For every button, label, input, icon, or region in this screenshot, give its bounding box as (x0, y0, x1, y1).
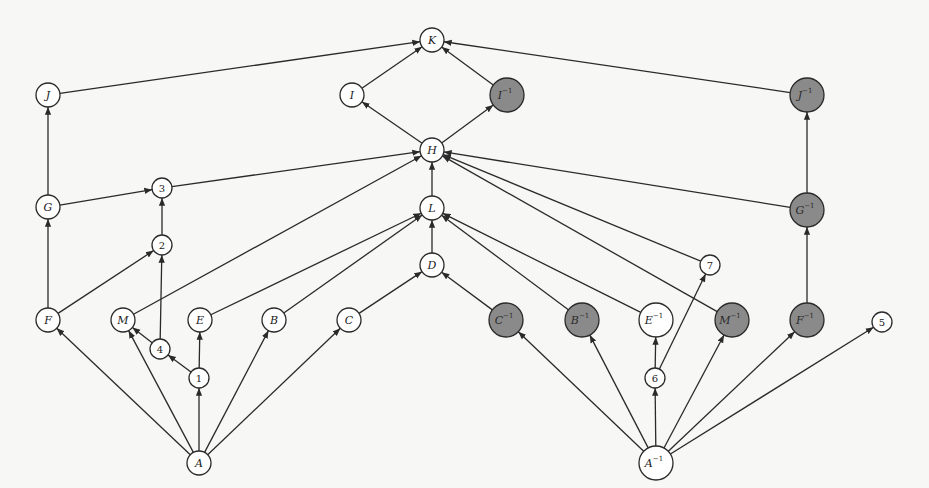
node-n6: 6 (645, 368, 665, 388)
node-F: F (36, 308, 60, 332)
node-n7: 7 (700, 255, 720, 275)
node-label: H (426, 144, 437, 157)
edge-A-to-C (208, 328, 341, 454)
node-H: H (420, 138, 444, 162)
edge-Einv-to-L (443, 213, 641, 312)
edge-n6-to-Einv (655, 337, 656, 368)
node-I: I (340, 83, 364, 107)
node-label: I (349, 89, 355, 102)
node-n3: 3 (152, 178, 172, 198)
node-label: C (345, 314, 354, 327)
directed-graph-diagram: KII−1JJ−1HLDG32G−1FMEBC41AC−1B−1E−1M−1F−… (0, 0, 929, 488)
node-Finv: F−1 (790, 303, 824, 337)
node-n1: 1 (189, 368, 209, 388)
edge-n3-to-H (172, 152, 420, 187)
node-label: A (194, 457, 203, 470)
edge-Ainv-to-Cinv (518, 332, 643, 452)
node-n2: 2 (152, 235, 172, 255)
node-label: G (44, 201, 53, 214)
node-n5: 5 (872, 312, 892, 332)
node-Binv: B−1 (565, 303, 599, 337)
node-label: 5 (879, 317, 885, 328)
node-label: 7 (707, 260, 713, 271)
node-label: B (269, 314, 278, 327)
node-M: M (111, 308, 135, 332)
edge-Ainv-to-Minv (664, 335, 724, 448)
node-Minv: M−1 (715, 303, 749, 337)
edge-B-to-L (284, 215, 422, 313)
node-circle (790, 78, 824, 112)
edge-I-to-K (362, 47, 422, 88)
node-D: D (420, 253, 444, 277)
node-label: E (195, 314, 204, 327)
edge-H-to-Iinv (442, 105, 494, 143)
node-Ginv: G−1 (790, 193, 824, 227)
edge-Ainv-to-n6 (655, 388, 656, 446)
edge-Ginv-to-H (444, 152, 790, 207)
edge-Binv-to-L (442, 215, 569, 310)
edge-A-to-B (205, 331, 269, 453)
nodes-layer: KII−1JJ−1HLDG32G−1FMEBC41AC−1B−1E−1M−1F−… (36, 28, 892, 480)
node-label: F (43, 314, 52, 327)
edge-n1-to-E (199, 332, 200, 368)
node-label: D (427, 259, 437, 272)
edge-Ainv-to-Finv (668, 332, 794, 452)
node-E: E (188, 308, 212, 332)
edge-F-to-n2 (58, 250, 154, 313)
node-label: K (427, 34, 437, 47)
node-label: L (427, 202, 435, 215)
node-B: B (262, 308, 286, 332)
edge-C-to-D (359, 272, 422, 314)
node-label: M (116, 314, 129, 327)
node-label: 2 (159, 240, 165, 251)
node-K: K (420, 28, 444, 52)
node-A: A (187, 451, 211, 475)
edge-Ainv-to-Binv (590, 335, 648, 448)
edge-n4-to-M (132, 327, 152, 342)
edge-H-to-I (362, 102, 422, 143)
node-label: 4 (157, 344, 163, 355)
node-label: 6 (652, 373, 658, 384)
node-Einv: E−1 (639, 303, 673, 337)
edge-Iinv-to-K (442, 47, 494, 85)
node-label: 1 (196, 373, 202, 384)
edge-Ainv-to-n5 (670, 327, 873, 454)
node-C: C (337, 308, 361, 332)
node-J: J (36, 83, 60, 107)
node-label: 3 (159, 183, 165, 194)
edge-E-to-L (211, 213, 421, 315)
edge-Cinv-to-D (442, 272, 493, 310)
node-Ainv: A−1 (639, 446, 673, 480)
edge-G-to-n3 (60, 190, 152, 205)
node-L: L (420, 196, 444, 220)
node-Iinv: I−1 (490, 78, 524, 112)
node-circle (490, 78, 524, 112)
edge-n1-to-n4 (168, 355, 191, 372)
edge-n4-to-n2 (160, 255, 162, 339)
node-label: J (44, 89, 51, 102)
node-G: G (36, 195, 60, 219)
node-Cinv: C−1 (489, 303, 523, 337)
edge-M-to-H (134, 156, 422, 314)
node-n4: 4 (150, 339, 170, 359)
node-Jinv: J−1 (790, 78, 824, 112)
